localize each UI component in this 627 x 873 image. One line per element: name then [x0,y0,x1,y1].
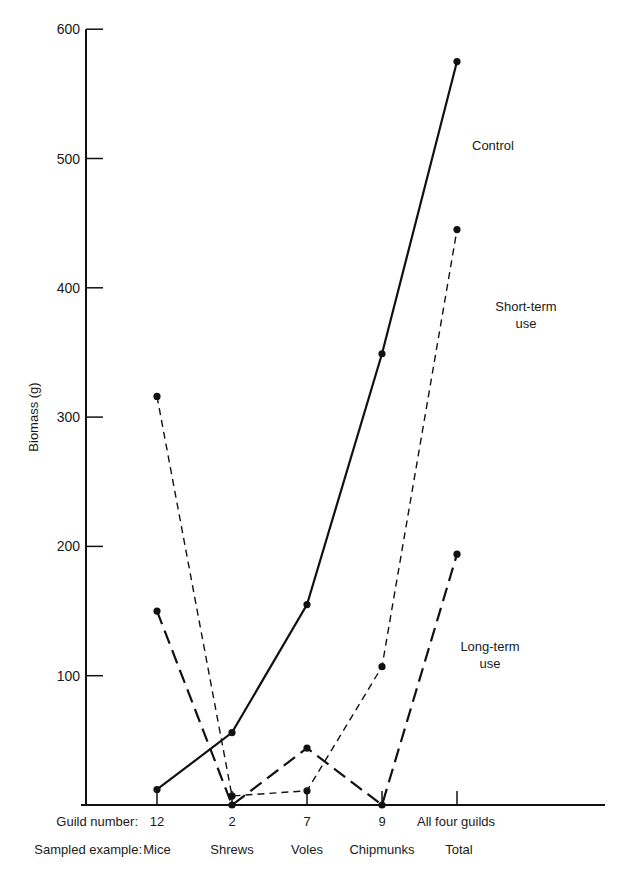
x-tick-label-example: Voles [291,842,323,857]
data-point [453,226,460,233]
x-tick-label-guild: 7 [303,814,310,829]
y-tick-label: 100 [57,668,81,684]
sampled-example-row-label: Sampled example: [34,842,142,857]
series-label: Long-term [460,639,519,654]
y-tick-label: 400 [57,280,81,296]
series-label: Short-term [495,299,556,314]
long-term-use-line [157,554,457,805]
x-tick-label-guild: 12 [150,814,164,829]
y-tick-label: 600 [57,21,81,37]
data-point [153,607,160,614]
x-tick-label-guild: 2 [228,814,235,829]
y-axis-label: Biomass (g) [26,382,41,451]
data-point [153,393,160,400]
y-tick-label: 300 [57,409,81,425]
data-point [453,551,460,558]
x-tick-label-guild: All four guilds [417,814,496,829]
data-point [378,350,385,357]
control-line [157,62,457,790]
x-tick-label-example: Mice [143,842,170,857]
data-point [303,601,310,608]
data-point [153,786,160,793]
guild-number-row-label: Guild number: [56,814,138,829]
data-point [453,58,460,65]
data-point [303,745,310,752]
y-axis-ticks: 100200300400500600 [57,21,103,684]
data-point [378,801,385,808]
data-point [228,729,235,736]
series-labels: ControlShort-termuseLong-termuse [460,138,556,671]
biomass-line-chart: 100200300400500600 Biomass (g) ControlSh… [0,0,627,873]
series-label: use [480,656,501,671]
data-point [303,787,310,794]
series-label: use [516,316,537,331]
x-axis-labels: Guild number: Sampled example: 12Mice2Sh… [34,814,495,857]
data-point [378,663,385,670]
y-tick-label: 200 [57,538,81,554]
x-tick-label-example: Shrews [210,842,254,857]
data-point [228,801,235,808]
x-tick-label-example: Chipmunks [349,842,415,857]
y-tick-label: 500 [57,151,81,167]
axes [81,29,605,805]
x-tick-label-example: Total [445,842,473,857]
x-tick-label-guild: 9 [378,814,385,829]
series-label: Control [472,138,514,153]
series-lines [153,58,460,809]
short-term-use-line [157,230,457,796]
